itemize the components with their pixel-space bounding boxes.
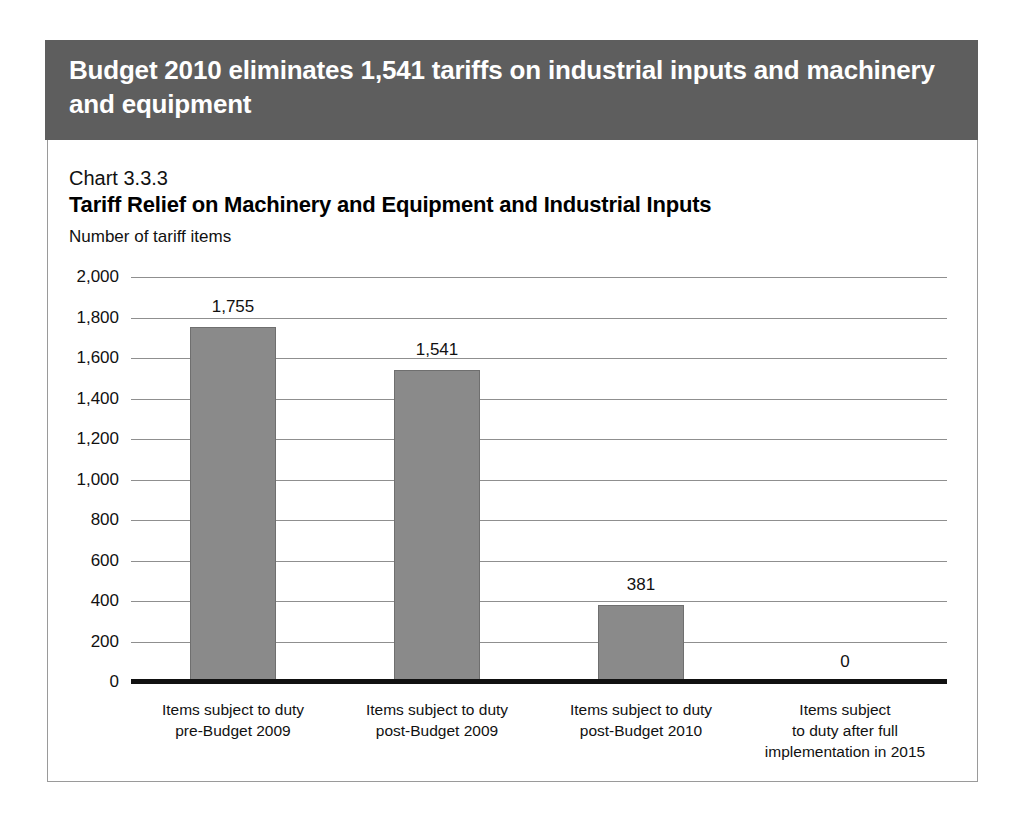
y-axis-tick-label: 200 — [91, 632, 119, 652]
y-axis-tick-label: 800 — [91, 510, 119, 530]
bar[interactable] — [598, 605, 684, 682]
bar-value-label: 381 — [627, 575, 655, 595]
plot-area: 2,0001,8001,6001,4001,2001,0008006004002… — [131, 277, 947, 682]
y-axis-tick-label: 1,600 — [76, 348, 119, 368]
y-axis-unit-label: Number of tariff items — [69, 227, 231, 247]
y-axis-tick-label: 400 — [91, 591, 119, 611]
x-axis-category-label: Items subject to duty after full impleme… — [735, 700, 955, 763]
bar-group: 1,541Items subject to duty post-Budget 2… — [335, 277, 539, 682]
bar[interactable] — [394, 370, 480, 682]
chart-title: Tariff Relief on Machinery and Equipment… — [69, 192, 711, 218]
chart-number: Chart 3.3.3 — [69, 167, 168, 190]
bar-group: 0Items subject to duty after full implem… — [743, 277, 947, 682]
banner-title: Budget 2010 eliminates 1,541 tariffs on … — [69, 54, 954, 122]
y-axis-tick-label: 0 — [110, 672, 119, 692]
y-axis-tick-label: 2,000 — [76, 267, 119, 287]
banner: Budget 2010 eliminates 1,541 tariffs on … — [45, 40, 978, 140]
y-axis-tick-label: 600 — [91, 551, 119, 571]
x-axis-category-label: Items subject to duty post-Budget 2009 — [327, 700, 547, 742]
chart-figure: Budget 2010 eliminates 1,541 tariffs on … — [45, 40, 978, 783]
x-axis-category-label: Items subject to duty pre-Budget 2009 — [123, 700, 343, 742]
bar-value-label: 0 — [840, 652, 849, 672]
x-axis-category-label: Items subject to duty post-Budget 2010 — [531, 700, 751, 742]
bar-value-label: 1,755 — [212, 297, 255, 317]
x-axis-baseline — [131, 679, 947, 684]
bar[interactable] — [190, 327, 276, 682]
y-axis-tick-label: 1,800 — [76, 308, 119, 328]
bar-group: 1,755Items subject to duty pre-Budget 20… — [131, 277, 335, 682]
bar-value-label: 1,541 — [416, 340, 459, 360]
y-axis-tick-label: 1,400 — [76, 389, 119, 409]
y-axis-tick-label: 1,200 — [76, 429, 119, 449]
y-axis-tick-label: 1,000 — [76, 470, 119, 490]
chart-panel: Chart 3.3.3 Tariff Relief on Machinery a… — [47, 140, 978, 782]
bar-group: 381Items subject to duty post-Budget 201… — [539, 277, 743, 682]
